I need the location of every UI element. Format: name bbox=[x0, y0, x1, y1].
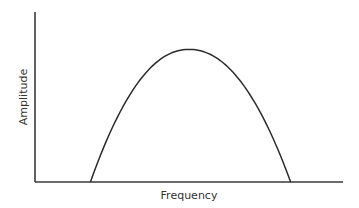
x-axis-label: Frequency bbox=[161, 189, 218, 202]
amplitude-frequency-diagram: Frequency Amplitude bbox=[0, 0, 359, 208]
amplitude-curve bbox=[90, 49, 290, 182]
y-axis-label: Amplitude bbox=[17, 69, 30, 126]
